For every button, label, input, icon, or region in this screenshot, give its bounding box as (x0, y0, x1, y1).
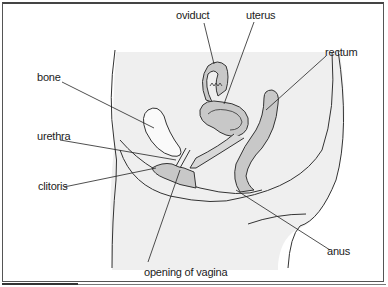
label-rectum: rectum (325, 46, 357, 58)
anatomy-illustration (0, 0, 388, 287)
label-anus: anus (327, 245, 350, 257)
bottom-rule-light (78, 284, 386, 285)
bottom-rule (0, 283, 388, 287)
label-opening-of-vagina: opening of vagina (144, 266, 227, 278)
label-uterus: uterus (246, 9, 275, 21)
label-clitoris: clitoris (38, 180, 68, 192)
label-urethra: urethra (37, 130, 70, 142)
label-oviduct: oviduct (176, 9, 209, 21)
label-bone: bone (37, 71, 61, 83)
bottom-rule-dark (2, 283, 78, 285)
